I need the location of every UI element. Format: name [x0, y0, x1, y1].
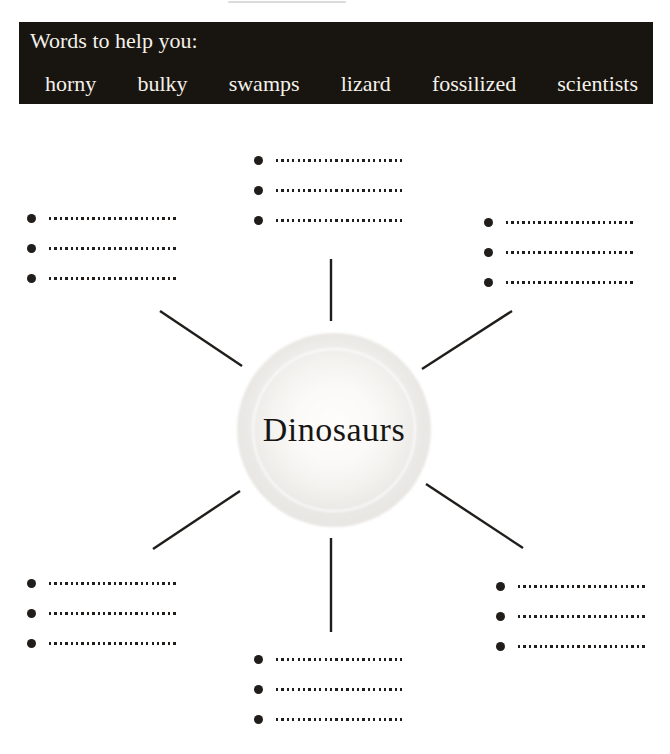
answer-blank[interactable]	[276, 159, 406, 162]
word-bank-title: Words to help you:	[30, 28, 198, 54]
word-bank: Words to help you: horny bulky swamps li…	[19, 22, 653, 104]
answer-blank[interactable]	[49, 612, 179, 615]
bullet-icon	[496, 582, 505, 591]
bullet-icon	[27, 609, 36, 618]
answer-blank[interactable]	[518, 615, 648, 618]
answer-blank[interactable]	[276, 658, 406, 661]
word-bank-word: bulky	[137, 71, 187, 97]
bullet-icon	[27, 214, 36, 223]
answer-blank[interactable]	[506, 281, 636, 284]
connector-top-left	[160, 311, 242, 366]
bullet-icon	[254, 655, 263, 664]
worksheet-page: Words to help you: horny bulky swamps li…	[0, 0, 670, 754]
center-topic-label: Dinosaurs	[237, 333, 431, 527]
blank-line	[254, 205, 406, 235]
answer-blank[interactable]	[518, 645, 648, 648]
blank-line	[27, 628, 179, 658]
branch-bottom	[254, 644, 406, 734]
blank-line	[254, 704, 406, 734]
branch-bottom-right	[496, 571, 648, 661]
answer-blank[interactable]	[276, 718, 406, 721]
word-bank-word: fossilized	[432, 71, 516, 97]
branch-top-left	[27, 203, 179, 293]
blank-line	[496, 601, 648, 631]
blank-line	[254, 644, 406, 674]
word-bank-words: horny bulky swamps lizard fossilized sci…	[45, 71, 638, 97]
bullet-icon	[484, 248, 493, 257]
branch-bottom-left	[27, 568, 179, 658]
blank-line	[27, 568, 179, 598]
answer-blank[interactable]	[49, 642, 179, 645]
answer-blank[interactable]	[49, 582, 179, 585]
bullet-icon	[254, 715, 263, 724]
blank-line	[484, 237, 636, 267]
blank-line	[484, 267, 636, 297]
branch-top-right	[484, 207, 636, 297]
word-bank-word: scientists	[557, 71, 638, 97]
answer-blank[interactable]	[49, 217, 179, 220]
bullet-icon	[254, 156, 263, 165]
blank-line	[496, 571, 648, 601]
bullet-icon	[27, 579, 36, 588]
blank-line	[254, 145, 406, 175]
bullet-icon	[254, 186, 263, 195]
answer-blank[interactable]	[276, 688, 406, 691]
bullet-icon	[496, 642, 505, 651]
connector-top-right	[422, 311, 512, 369]
word-bank-word: swamps	[229, 71, 300, 97]
blank-line	[27, 203, 179, 233]
word-bank-word: lizard	[341, 71, 391, 97]
answer-blank[interactable]	[518, 585, 648, 588]
blank-line	[27, 263, 179, 293]
blank-line	[254, 175, 406, 205]
bullet-icon	[27, 244, 36, 253]
center-topic-bubble: Dinosaurs	[237, 333, 431, 527]
scan-artifact	[228, 1, 346, 3]
answer-blank[interactable]	[276, 189, 406, 192]
answer-blank[interactable]	[276, 219, 406, 222]
answer-blank[interactable]	[506, 251, 636, 254]
answer-blank[interactable]	[506, 221, 636, 224]
blank-line	[27, 233, 179, 263]
answer-blank[interactable]	[49, 277, 179, 280]
word-bank-word: horny	[45, 71, 96, 97]
bullet-icon	[254, 685, 263, 694]
blank-line	[496, 631, 648, 661]
blank-line	[254, 674, 406, 704]
answer-blank[interactable]	[49, 247, 179, 250]
bullet-icon	[484, 218, 493, 227]
bullet-icon	[496, 612, 505, 621]
blank-line	[484, 207, 636, 237]
blank-line	[27, 598, 179, 628]
connector-bottom-right	[426, 484, 523, 548]
connector-bottom-left	[153, 491, 240, 549]
bullet-icon	[27, 639, 36, 648]
bullet-icon	[27, 274, 36, 283]
branch-top	[254, 145, 406, 235]
bullet-icon	[484, 278, 493, 287]
bullet-icon	[254, 216, 263, 225]
